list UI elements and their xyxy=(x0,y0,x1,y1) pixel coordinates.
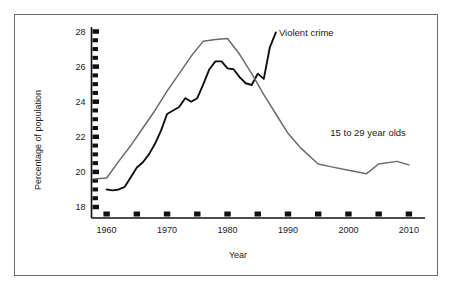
y-axis-tick-label: 24 xyxy=(75,97,85,107)
series-line-age-group xyxy=(95,39,409,179)
x-axis-tick xyxy=(406,212,412,217)
series-label-age-group: 15 to 29 year olds xyxy=(330,127,406,138)
x-axis-tick xyxy=(194,212,200,217)
chart-figure: 182022242628 196019701980199020002010 Pe… xyxy=(0,0,453,295)
x-axis-tick xyxy=(255,212,261,217)
y-axis-tick xyxy=(93,73,99,77)
x-axis-tick xyxy=(164,212,170,217)
x-axis-tick xyxy=(345,212,351,217)
y-axis-tick-label: 20 xyxy=(75,167,85,177)
x-axis-tick xyxy=(103,212,109,217)
x-axis-tick xyxy=(375,212,381,217)
x-axis-tick-label: 1970 xyxy=(157,225,177,235)
x-axis-tick-label: 1960 xyxy=(97,225,117,235)
y-axis-tick xyxy=(93,152,99,156)
y-axis-tick xyxy=(93,91,99,95)
y-axis-tick-label: 26 xyxy=(75,62,85,72)
y-axis-tick xyxy=(93,161,99,165)
y-axis-tick xyxy=(93,135,100,140)
x-axis-group: 196019701980199020002010 xyxy=(92,212,426,236)
x-axis-tick xyxy=(134,212,140,217)
line-chart-plot: 182022242628 196019701980199020002010 Pe… xyxy=(0,0,453,295)
y-axis-tick xyxy=(93,29,100,34)
y-axis-ticks xyxy=(93,29,100,209)
y-axis-tick xyxy=(93,56,99,60)
x-axis-tick-label: 2010 xyxy=(399,225,419,235)
y-axis-tick xyxy=(93,170,100,175)
y-axis-tick xyxy=(93,38,99,42)
data-series-group xyxy=(95,32,409,190)
x-axis-tick-label: 1980 xyxy=(218,225,238,235)
x-axis-ticks xyxy=(103,212,412,217)
x-axis-tick-label: 1990 xyxy=(278,225,298,235)
y-axis-tick-labels: 182022242628 xyxy=(75,27,85,213)
x-axis-tick-label: 2000 xyxy=(338,225,358,235)
y-axis-tick xyxy=(93,99,100,104)
y-axis-tick xyxy=(93,144,99,148)
y-axis-tick xyxy=(93,64,100,69)
y-axis-title: Percentage of population xyxy=(33,90,43,190)
y-axis-tick xyxy=(93,117,99,121)
x-axis-tick-labels: 196019701980199020002010 xyxy=(97,225,419,235)
y-axis-tick xyxy=(93,187,99,191)
y-axis-tick xyxy=(93,82,99,86)
x-axis-tick xyxy=(315,212,321,217)
y-axis-tick xyxy=(93,205,100,210)
y-axis-tick-label: 28 xyxy=(75,27,85,37)
y-axis-tick xyxy=(93,47,99,51)
x-axis-tick xyxy=(285,212,291,217)
series-label-violent-crime: Violent crime xyxy=(279,27,334,38)
x-axis-title: Year xyxy=(229,250,247,260)
y-axis-tick-label: 18 xyxy=(75,202,85,212)
y-axis-tick xyxy=(93,196,99,200)
y-axis-tick-label: 22 xyxy=(75,132,85,142)
y-axis-group: 182022242628 xyxy=(75,27,99,218)
x-axis-tick xyxy=(224,212,230,217)
y-axis-tick xyxy=(93,126,99,130)
y-axis-tick xyxy=(93,108,99,112)
